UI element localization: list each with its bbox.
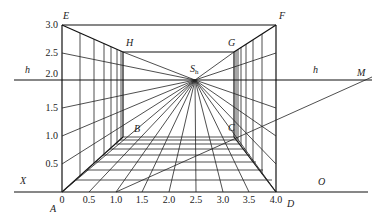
x-tick: 0 [60, 194, 65, 205]
edge-EH [62, 25, 123, 52]
label-Sh: Sh [190, 63, 199, 76]
label-O: O [318, 176, 325, 187]
y-tick: 2.5 [46, 47, 59, 58]
label-H: H [125, 37, 134, 48]
y-tick: 0.5 [46, 158, 59, 169]
x-tick: 3.5 [243, 194, 256, 205]
x-tick: 4.0 [270, 194, 283, 205]
measuring-line-to-M [116, 77, 372, 192]
label-B: B [134, 123, 140, 134]
left-wall-verticals [80, 33, 121, 176]
perspective-room-diagram: 3.0 2.5 2.0 1.5 1.0 0.5 0 0.5 1.0 1.5 2.… [0, 0, 382, 220]
x-tick: 1.0 [110, 194, 123, 205]
edge-AB [62, 137, 123, 192]
right-wall-verticals [236, 34, 262, 174]
label-F: F [278, 10, 286, 21]
label-A: A [49, 203, 57, 214]
label-M: M [356, 67, 366, 78]
x-tick: 3.0 [217, 194, 230, 205]
label-h-right: h [313, 64, 318, 75]
x-tick: 2.0 [163, 194, 176, 205]
y-tick: 3.0 [46, 19, 59, 30]
label-h-left: h [25, 64, 30, 75]
label-D: D [286, 198, 295, 209]
label-E: E [62, 10, 69, 21]
x-tick: 0.5 [83, 194, 96, 205]
y-tick: 1.0 [46, 130, 59, 141]
label-C: C [228, 122, 235, 133]
x-tick: 1.5 [136, 194, 149, 205]
label-G: G [228, 37, 235, 48]
y-tick: 2.0 [46, 68, 59, 79]
label-X: X [19, 175, 27, 186]
y-tick: 1.5 [46, 102, 59, 113]
x-tick: 2.5 [190, 194, 203, 205]
edge-FG [234, 25, 276, 52]
